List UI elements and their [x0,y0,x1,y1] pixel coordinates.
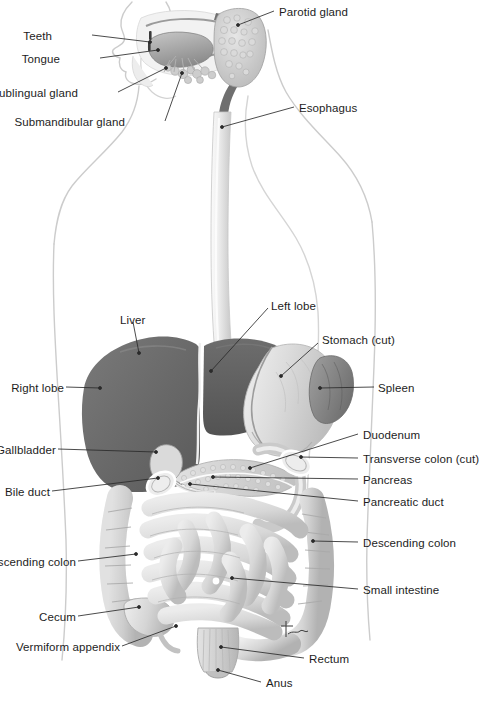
small-intestine-highlight [213,578,220,585]
spleen [309,356,353,424]
label-transverse-colon-cut: Transverse colon (cut) [363,453,479,465]
label-sublingual-gland: Sublingual gland [0,87,78,99]
parotid-gland [214,8,266,87]
label-spleen: Spleen [378,382,414,394]
label-liver: Liver [120,314,145,326]
label-cecum: Cecum [0,611,76,623]
esophagus [211,112,231,342]
label-parotid-gland: Parotid gland [279,6,348,18]
label-submandibular-gland: Submandibular gland [0,116,125,128]
small-intestine [148,500,300,632]
label-vermiform-appendix: Vermiform appendix [0,641,120,653]
label-duodenum: Duodenum [363,429,420,441]
label-pancreatic-duct: Pancreatic duct [363,496,444,508]
label-gallbladder: Gallbladder [0,444,56,456]
label-left-lobe: Left lobe [271,300,316,312]
liver-right-lobe [82,337,200,493]
label-anus: Anus [266,677,293,689]
label-ascending-colon: Ascending colon [0,556,76,568]
vermiform-appendix [160,634,178,651]
label-esophagus: Esophagus [299,102,357,114]
anus [206,672,230,678]
label-small-intestine: Small intestine [363,584,439,596]
label-rectum: Rectum [309,653,349,665]
label-tongue: Tongue [0,53,60,65]
label-descending-colon: Descending colon [363,537,456,549]
label-right-lobe: Right lobe [0,382,64,394]
label-pancreas: Pancreas [363,474,412,486]
label-teeth: Teeth [0,30,52,42]
label-stomach-cut: Stomach (cut) [322,334,395,346]
label-bile-duct: Bile duct [0,486,50,498]
